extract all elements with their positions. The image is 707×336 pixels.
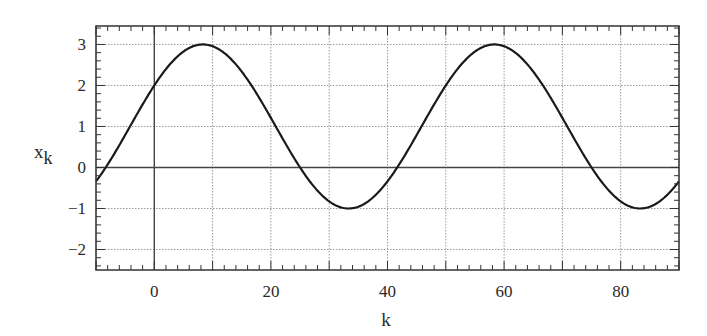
line-chart: 020406080 −2−10123 k xk (0, 0, 707, 336)
x-tick-label: 40 (379, 282, 396, 301)
y-tick-label: 0 (78, 158, 87, 177)
x-tick-label: 0 (150, 282, 159, 301)
y-tick-label: −1 (68, 199, 86, 218)
y-tick-label: 2 (78, 76, 87, 95)
x-tick-labels: 020406080 (150, 282, 629, 301)
y-tick-labels: −2−10123 (68, 35, 86, 259)
y-tick-label: −2 (68, 240, 86, 259)
y-tick-label: 1 (78, 117, 87, 136)
grid-lines (96, 26, 679, 270)
x-tick-label: 60 (496, 282, 513, 301)
y-axis-label: xk (34, 141, 53, 168)
x-tick-label: 80 (612, 282, 629, 301)
x-tick-label: 20 (262, 282, 279, 301)
x-axis-label: k (381, 309, 391, 330)
y-tick-label: 3 (78, 35, 87, 54)
